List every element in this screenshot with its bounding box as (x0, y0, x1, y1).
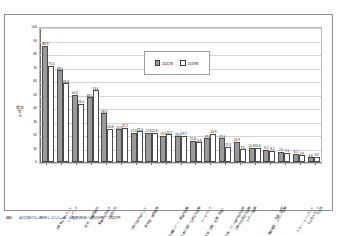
bar-value-label: 14.8 (196, 140, 202, 143)
bar-value-label: 17.6 (219, 136, 225, 139)
legend: 2022年 2019年 (144, 51, 210, 75)
figure-frame: 選択率 % 0102030405060708090100 86.971.668.… (4, 14, 333, 211)
bar-value-label: 53.6 (93, 88, 99, 91)
legend-label-2019: 2019年 (188, 61, 200, 66)
y-tick-label: 10 (33, 148, 37, 151)
bar-2019: 20.9 (210, 134, 216, 162)
bar-value-label: 10.6 (255, 145, 261, 148)
x-axis-labels: 日本食を食べることショッピング自然・景勝地観光繁華街の街歩き温泉入浴日本の酒を飲… (39, 164, 322, 208)
bar-value-label: 36.3 (101, 111, 107, 114)
bar-value-label: 23.0 (137, 129, 143, 132)
figure-caption-number: 図6 (6, 216, 12, 220)
bar-2019: 7.1 (284, 153, 290, 163)
bar-2019: 20.7 (166, 134, 172, 162)
bar-2019: 10.6 (255, 148, 261, 162)
bar-value-label: 58.8 (63, 81, 69, 84)
bar-value-label: 20.9 (210, 131, 216, 134)
bar-value-label: 19.7 (181, 133, 187, 136)
y-axis-unit: % (16, 115, 24, 119)
bar-value-label: 71.6 (48, 63, 54, 66)
bar-value-label: 68.5 (57, 68, 63, 71)
bar-group: 9.28.2 (262, 28, 277, 162)
bar-2019: 24.8 (107, 129, 113, 162)
bar-group: 68.558.8 (56, 28, 71, 162)
bar-2019: 43.4 (78, 104, 84, 162)
legend-item-2022: 2022年 (155, 60, 175, 66)
y-tick-label: 20 (33, 134, 37, 137)
bar-group: 21.623.0 (129, 28, 144, 162)
y-tick-label: 40 (33, 107, 37, 110)
bar-group: 48.253.6 (85, 28, 100, 162)
bar-group: 36.324.8 (100, 28, 115, 162)
bar-group: 86.971.6 (41, 28, 56, 162)
bar-2019: 9.5 (240, 149, 246, 162)
figure-caption-text: 訪日旅行に期待したいこと（複数回答）2019年・2022年 (19, 216, 121, 220)
bar-value-label: 24.8 (107, 126, 113, 129)
bar-value-label: 20.7 (166, 132, 172, 135)
bar-group: 21.621.8 (144, 28, 159, 162)
bar-value-label: 86.9 (42, 43, 48, 46)
bar-value-label: 3.9 (314, 154, 318, 157)
bar-2019: 8.2 (269, 151, 275, 162)
bar-value-label: 4.9 (300, 153, 304, 156)
figure-caption: 図6 訪日旅行に期待したいこと（複数回答）2019年・2022年 (6, 216, 336, 221)
bar-value-label: 14.9 (234, 139, 240, 142)
legend-swatch-filled-icon (155, 60, 161, 66)
y-tick-label: 100 (31, 26, 37, 29)
bar-group: 19.319.7 (174, 28, 189, 162)
bar-value-label: 25.7 (122, 125, 128, 128)
legend-label-2022: 2022年 (162, 61, 174, 66)
bar-value-label: 9.2 (264, 147, 268, 150)
bar-2019: 14.8 (196, 142, 202, 162)
bar-value-label: 50.3 (72, 92, 78, 95)
plot-area: 0102030405060708090100 86.971.668.558.85… (39, 27, 322, 164)
bar-value-label: 43.4 (78, 101, 84, 104)
bar-2019: 53.6 (93, 90, 99, 162)
bar-2019: 19.7 (181, 136, 187, 162)
bar-2019: 11.3 (225, 147, 231, 162)
legend-swatch-open-icon (180, 60, 186, 66)
bar-group: 15.814.8 (188, 28, 203, 162)
bar-group: 17.611.3 (218, 28, 233, 162)
bar-group: 19.620.7 (159, 28, 174, 162)
bar-value-label: 8.2 (270, 148, 274, 151)
bar-2019: 71.6 (48, 66, 54, 162)
y-axis-title: 選択率 % (16, 106, 24, 119)
y-tick-label: 80 (33, 53, 37, 56)
bar-group: 10.810.6 (247, 28, 262, 162)
bar-value-label: 9.5 (241, 147, 245, 150)
bar-2019: 23.0 (137, 131, 143, 162)
y-axis-title-text: 選択率 (16, 106, 24, 115)
bar-group: 14.99.5 (233, 28, 248, 162)
y-tick-label: 60 (33, 80, 37, 83)
legend-item-2019: 2019年 (180, 60, 200, 66)
bar-value-label: 6.1 (294, 151, 298, 154)
y-tick-label: 30 (33, 121, 37, 124)
bar-2019: 58.8 (63, 83, 69, 162)
y-tick-label: 70 (33, 67, 37, 70)
y-tick-label: 90 (33, 40, 37, 43)
bar-group: 24.325.7 (115, 28, 130, 162)
bar-value-label: 11.3 (225, 144, 231, 147)
bar-value-label: 21.8 (152, 130, 158, 133)
figure-container: 選択率 % 0102030405060708090100 86.971.668.… (0, 0, 339, 236)
y-tick-label: 50 (33, 94, 37, 97)
bar-value-label: 7.5 (279, 149, 283, 152)
bar-value-label: 3.6 (308, 155, 312, 158)
bar-group: 17.820.9 (203, 28, 218, 162)
bar-series-group: 86.971.668.558.850.343.448.253.636.324.8… (41, 28, 321, 162)
bar-group: 7.57.1 (277, 28, 292, 162)
bar-group: 3.63.9 (306, 28, 321, 162)
y-tick-label: 0 (35, 161, 37, 164)
bar-value-label: 7.1 (285, 150, 289, 153)
bar-group: 6.14.9 (291, 28, 306, 162)
bar-2019: 25.7 (122, 128, 128, 162)
bar-group: 50.343.4 (70, 28, 85, 162)
bar-2019: 21.8 (152, 133, 158, 162)
